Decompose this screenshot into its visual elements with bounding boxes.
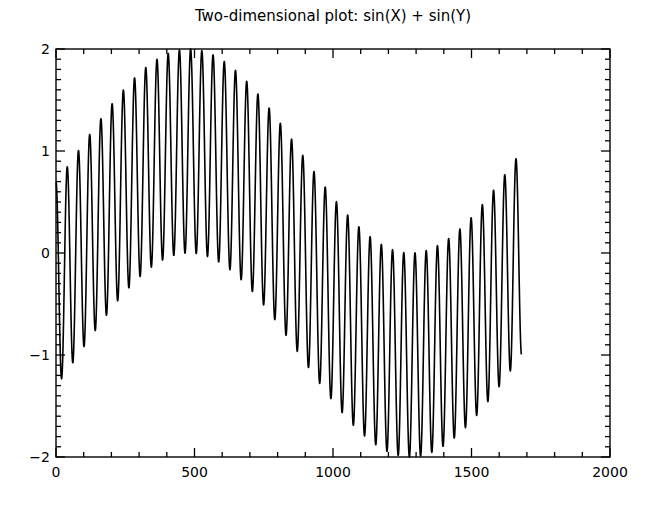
chart-title: Two-dimensional plot: sin(X) + sin(Y) (194, 7, 471, 25)
plot-canvas: Two-dimensional plot: sin(X) + sin(Y) 05… (0, 0, 658, 512)
y-tick-label: −2 (29, 449, 50, 465)
x-tick-label: 2000 (592, 464, 628, 480)
y-axis-tick-labels: −2−1012 (29, 41, 50, 465)
y-tick-label: 2 (41, 41, 50, 57)
x-axis-tick-labels: 0500100015002000 (52, 464, 628, 480)
x-tick-label: 500 (181, 464, 208, 480)
data-line-sinx-plus-siny (56, 49, 521, 457)
y-tick-label: −1 (29, 347, 50, 363)
x-tick-label: 1500 (454, 464, 490, 480)
y-tick-label: 0 (41, 245, 50, 261)
x-tick-label: 0 (52, 464, 61, 480)
x-tick-label: 1000 (315, 464, 351, 480)
y-tick-label: 1 (41, 143, 50, 159)
chart: Two-dimensional plot: sin(X) + sin(Y) 05… (0, 0, 658, 512)
